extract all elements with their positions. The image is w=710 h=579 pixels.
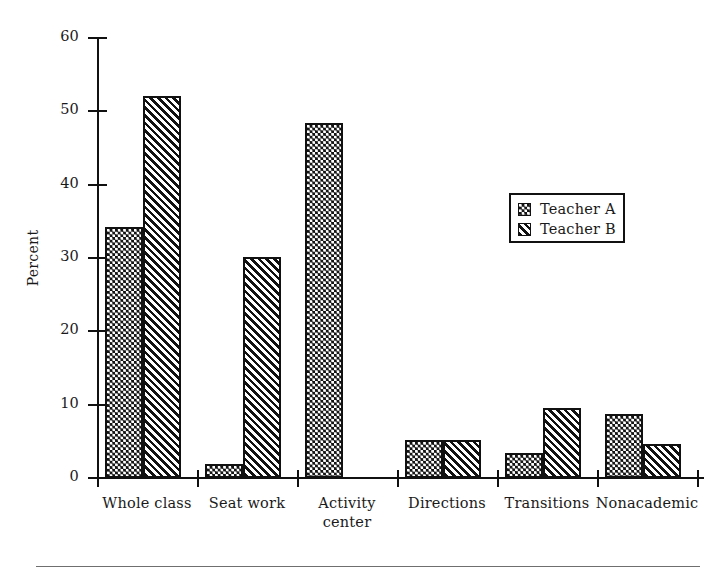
- x-label-nonacademic: Nonacademic: [585, 494, 709, 513]
- y-tick-mark: [88, 184, 107, 186]
- y-tick-30: 30: [0, 257, 107, 259]
- bar-transitions-teacher-a: [505, 453, 543, 478]
- x-label-line: center: [285, 513, 409, 532]
- x-label-line: Directions: [408, 495, 486, 511]
- y-tick-mark: [88, 110, 107, 112]
- bar-nonacademic-teacher-a: [605, 414, 643, 478]
- footer-rule: [36, 566, 700, 567]
- bar-directions-teacher-b: [443, 440, 481, 478]
- x-label-line: Whole class: [102, 495, 191, 511]
- legend-label-teacher-b: Teacher B: [540, 222, 616, 237]
- y-tick-50: 50: [0, 110, 107, 112]
- legend-item-teacher-a: Teacher A: [518, 199, 617, 219]
- bar-chart: 0102030405060 Percent Whole classSeat wo…: [0, 0, 710, 579]
- y-tick-label: 10: [45, 396, 79, 410]
- x-label-line: Transitions: [505, 495, 590, 511]
- y-tick-label: 40: [45, 176, 79, 190]
- legend-label-teacher-a: Teacher A: [540, 202, 616, 217]
- legend-swatch-dots-icon: [518, 203, 531, 216]
- bar-nonacademic-teacher-b: [643, 444, 681, 478]
- x-tick-mark: [197, 470, 199, 487]
- y-tick-40: 40: [0, 184, 107, 186]
- x-label-line: Nonacademic: [596, 495, 699, 511]
- legend: Teacher A Teacher B: [509, 193, 625, 243]
- x-tick-mark: [97, 470, 99, 487]
- y-tick-20: 20: [0, 330, 107, 332]
- x-tick-mark: [497, 470, 499, 487]
- legend-item-teacher-b: Teacher B: [518, 219, 617, 239]
- y-tick-label: 20: [45, 322, 79, 336]
- legend-swatch-hatch-icon: [518, 223, 531, 236]
- y-axis-title: Percent: [25, 218, 41, 298]
- x-tick-mark: [597, 470, 599, 487]
- x-tick-mark: [697, 470, 699, 487]
- bar-transitions-teacher-b: [543, 408, 581, 478]
- x-label-line: Activity: [318, 495, 376, 511]
- y-tick-label: 60: [45, 29, 79, 43]
- y-tick-label: 50: [45, 102, 79, 116]
- bar-activity-center-teacher-a: [305, 123, 343, 478]
- y-tick-mark: [88, 37, 107, 39]
- y-tick-label: 30: [45, 249, 79, 263]
- y-tick-label: 0: [45, 469, 79, 483]
- bar-directions-teacher-a: [405, 440, 443, 478]
- bar-whole-class-teacher-b: [143, 96, 181, 478]
- bar-whole-class-teacher-a: [105, 227, 143, 478]
- x-label-line: Seat work: [209, 495, 285, 511]
- y-tick-0: 0: [0, 477, 107, 479]
- bar-seat-work-teacher-a: [205, 464, 243, 478]
- bar-seat-work-teacher-b: [243, 257, 281, 478]
- x-tick-mark: [397, 470, 399, 487]
- x-tick-mark: [297, 470, 299, 487]
- y-tick-60: 60: [0, 37, 107, 39]
- y-tick-10: 10: [0, 404, 107, 406]
